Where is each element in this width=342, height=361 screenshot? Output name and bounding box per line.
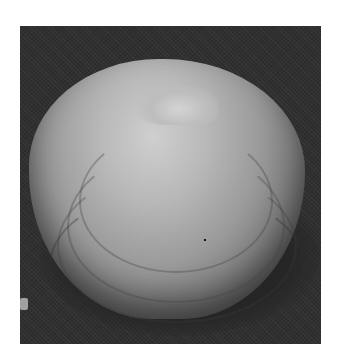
clam-shell-photo bbox=[20, 26, 321, 344]
clam-shell bbox=[29, 59, 305, 319]
edge-mark bbox=[20, 298, 28, 310]
growth-ring bbox=[49, 189, 305, 343]
shell-umbo bbox=[139, 85, 219, 125]
shell-speck bbox=[204, 239, 206, 241]
